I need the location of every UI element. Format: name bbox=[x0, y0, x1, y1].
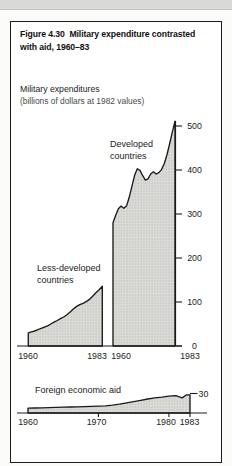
y-tick-label: 100 bbox=[187, 297, 202, 307]
foreign-economic-aid-label: Foreign economic aid bbox=[35, 385, 121, 395]
y-tick-label: 30 bbox=[199, 389, 209, 399]
less-developed-countries-area bbox=[28, 286, 102, 346]
x-tick-label: 1980 bbox=[156, 417, 176, 427]
less-developed-countries-label: Less-developedcountries bbox=[37, 263, 101, 285]
y-tick-label: 500 bbox=[187, 121, 202, 131]
developed-countries-label: Developedcountries bbox=[110, 139, 153, 161]
x-tick-label: 1960 bbox=[111, 351, 131, 361]
page: Figure 4.30 Military expenditure contras… bbox=[0, 0, 232, 466]
y-tick-label: 0 bbox=[192, 341, 197, 351]
foreign-economic-aid-area bbox=[28, 395, 190, 413]
x-tick-label: 1960 bbox=[18, 417, 38, 427]
x-tick-label: 1983 bbox=[180, 351, 200, 361]
x-tick-label: 1960 bbox=[18, 351, 38, 361]
y-tick-label: 200 bbox=[187, 253, 202, 263]
charts-canvas: Less-developedcountriesDevelopedcountrie… bbox=[0, 0, 232, 466]
x-tick-label: 1970 bbox=[87, 417, 107, 427]
y-tick-label: 300 bbox=[187, 209, 202, 219]
x-tick-label: 1983 bbox=[180, 417, 200, 427]
y-tick-label: 400 bbox=[187, 165, 202, 175]
x-tick-label: 1983 bbox=[87, 351, 107, 361]
